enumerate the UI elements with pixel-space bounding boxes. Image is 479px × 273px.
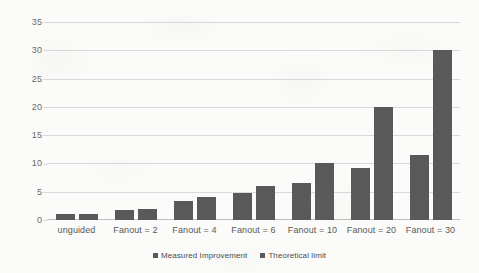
bar bbox=[292, 183, 311, 220]
bar-group bbox=[224, 22, 283, 220]
legend-label: Theoretical limit bbox=[268, 251, 326, 260]
y-axis-tick-label: 5 bbox=[8, 187, 42, 197]
chart-legend: Measured ImprovementTheoretical limit bbox=[0, 251, 479, 260]
bar bbox=[138, 209, 157, 220]
y-axis-tick-label: 30 bbox=[8, 45, 42, 55]
bar bbox=[174, 201, 193, 220]
legend-swatch-measured bbox=[153, 253, 158, 258]
x-axis-tick-label: Fanout = 10 bbox=[283, 222, 342, 238]
bar bbox=[256, 186, 275, 221]
y-axis-tick-label: 25 bbox=[8, 74, 42, 84]
y-axis-tick-label: 35 bbox=[8, 17, 42, 27]
bar-group bbox=[47, 22, 106, 220]
legend-item[interactable]: Theoretical limit bbox=[260, 251, 326, 260]
bar bbox=[56, 214, 75, 220]
x-axis-tick-label: Fanout = 4 bbox=[165, 222, 224, 238]
bar bbox=[374, 107, 393, 220]
bar-group bbox=[283, 22, 342, 220]
bars-layer bbox=[47, 22, 460, 220]
y-axis-tick-label: 0 bbox=[8, 215, 42, 225]
y-axis-tick-label: 15 bbox=[8, 130, 42, 140]
bar-group bbox=[342, 22, 401, 220]
x-axis-tick-label: Fanout = 20 bbox=[342, 222, 401, 238]
y-axis: 35 30 25 20 15 10 5 0 bbox=[0, 22, 42, 220]
bar-chart: 35 30 25 20 15 10 5 0 unguidedFanout = 2… bbox=[0, 0, 479, 273]
y-axis-tick-label: 10 bbox=[8, 158, 42, 168]
legend-label: Measured Improvement bbox=[161, 251, 247, 260]
bar bbox=[410, 155, 429, 220]
x-axis-tick-label: Fanout = 6 bbox=[224, 222, 283, 238]
legend-swatch-theoretical bbox=[260, 253, 265, 258]
x-axis-tick-label: unguided bbox=[47, 222, 106, 238]
x-axis-tick-label: Fanout = 2 bbox=[106, 222, 165, 238]
bar bbox=[351, 168, 370, 220]
bar-group bbox=[106, 22, 165, 220]
bar bbox=[79, 214, 98, 220]
bar-group bbox=[165, 22, 224, 220]
x-axis: unguidedFanout = 2Fanout = 4Fanout = 6Fa… bbox=[47, 222, 460, 238]
bar bbox=[197, 197, 216, 220]
bar bbox=[315, 163, 334, 220]
y-axis-tick-label: 20 bbox=[8, 102, 42, 112]
bar bbox=[433, 50, 452, 220]
bar-group bbox=[401, 22, 460, 220]
bar bbox=[115, 210, 134, 220]
y-axis-tick-mark bbox=[43, 220, 47, 221]
bar bbox=[233, 193, 252, 220]
legend-item[interactable]: Measured Improvement bbox=[153, 251, 247, 260]
x-axis-tick-label: Fanout = 30 bbox=[401, 222, 460, 238]
